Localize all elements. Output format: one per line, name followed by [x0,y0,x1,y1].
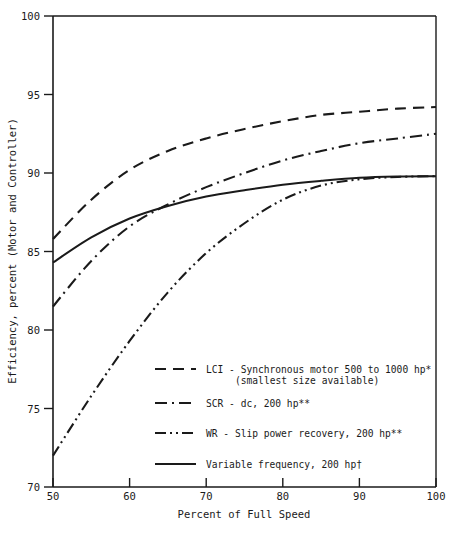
legend-label-scr: SCR - dc, 200 hp** [206,398,310,409]
x-tick-label-50: 50 [47,490,60,502]
x-tick-label-70: 70 [200,490,213,502]
y-axis-ticks [44,16,53,487]
chart-legend: LCI - Synchronous motor 500 to 1000 hp* … [155,364,431,470]
legend-item-wr: WR - Slip power recovery, 200 hp** [155,428,402,439]
x-axis-tick-labels: 50 60 70 80 90 100 [47,490,446,502]
y-tick-label-70: 70 [27,481,40,493]
series-line-variable-frequency [53,176,436,262]
series-line-scr [53,134,436,307]
legend-label-variable-frequency: Variable frequency, 200 hp† [206,459,362,470]
x-tick-label-80: 80 [276,490,289,502]
series-line-wr [53,176,436,455]
legend-item-variable-frequency: Variable frequency, 200 hp† [155,459,362,470]
y-tick-label-90: 90 [27,167,40,179]
legend-label-wr: WR - Slip power recovery, 200 hp** [206,428,402,439]
series-line-lci [53,107,436,239]
y-tick-label-75: 75 [27,403,40,415]
efficiency-chart-figure: 100 95 90 85 80 75 70 50 60 70 80 90 100 [0,0,454,533]
y-tick-label-95: 95 [27,89,40,101]
x-tick-label-100: 100 [427,490,446,502]
chart-canvas: 100 95 90 85 80 75 70 50 60 70 80 90 100 [0,0,454,533]
legend-label-lci-line2: (smallest size available) [235,375,379,386]
x-axis-title: Percent of Full Speed [178,508,311,520]
y-axis-tick-labels: 100 95 90 85 80 75 70 [21,10,40,493]
x-tick-label-90: 90 [353,490,366,502]
y-axis-title: Efficiency, percent (Motor and Controlle… [6,118,18,384]
y-tick-label-80: 80 [27,324,40,336]
legend-item-scr: SCR - dc, 200 hp** [155,398,310,409]
x-tick-label-60: 60 [123,490,136,502]
y-tick-label-85: 85 [27,246,40,258]
legend-label-lci: LCI - Synchronous motor 500 to 1000 hp* [206,364,431,375]
plot-frame [53,16,436,487]
x-axis-ticks [53,478,436,487]
legend-item-lci: LCI - Synchronous motor 500 to 1000 hp* … [155,364,431,387]
y-tick-label-100: 100 [21,10,40,22]
